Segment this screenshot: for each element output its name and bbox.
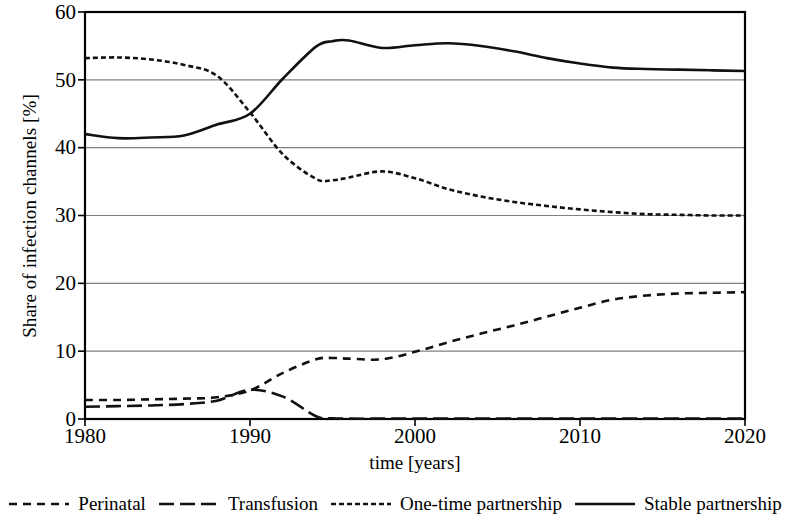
legend-label-stable-partnership: Stable partnership [644,494,782,514]
series-line-transfusion [85,390,745,419]
legend-item-stable-partnership: Stable partnership [562,494,782,514]
legend-label-transfusion: Transfusion [228,494,318,514]
plot-area [0,0,778,460]
chart-legend: Perinatal Transfusion One-time partnersh… [0,487,778,521]
legend-item-one-time-partnership: One-time partnership [318,494,562,514]
legend-swatch-stable-partnership [574,497,636,511]
legend-label-perinatal: Perinatal [78,494,146,514]
legend-item-transfusion: Transfusion [146,494,318,514]
legend-swatch-transfusion [158,497,220,511]
series-line-perinatal [85,292,745,400]
legend-item-perinatal: Perinatal [0,494,146,514]
legend-swatch-perinatal [8,497,70,511]
legend-swatch-one-time-partnership [330,497,392,511]
series-line-stable-partnership [85,40,745,138]
legend-label-one-time-partnership: One-time partnership [400,494,562,514]
